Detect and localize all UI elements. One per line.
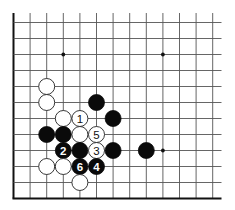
- move-number-label: 1: [77, 113, 83, 125]
- move-number-label: 4: [93, 161, 100, 173]
- star-point: [61, 53, 65, 57]
- white-stone-move-1: 1: [72, 111, 88, 127]
- star-point: [161, 149, 165, 153]
- black-stone-icon: [55, 127, 71, 143]
- white-stone-icon: [55, 111, 71, 127]
- black-stone-icon: [89, 95, 105, 111]
- white-stone: [72, 175, 88, 191]
- move-number-label: 3: [93, 145, 99, 157]
- white-stone-move-5: 5: [89, 127, 105, 143]
- go-board: 152364: [0, 0, 235, 210]
- white-stone: [72, 127, 88, 143]
- white-stone-move-3: 3: [89, 143, 105, 159]
- white-stone-icon: [72, 175, 88, 191]
- black-stone-icon: [138, 143, 154, 159]
- black-stone: [138, 143, 154, 159]
- black-stone: [89, 95, 105, 111]
- black-stone-move-2: 2: [55, 143, 71, 159]
- move-number-label: 6: [77, 161, 83, 173]
- black-stone-icon: [39, 127, 55, 143]
- white-stone: [55, 159, 71, 175]
- black-stone: [72, 143, 88, 159]
- black-stone: [105, 143, 121, 159]
- black-stone: [55, 127, 71, 143]
- white-stone: [39, 159, 55, 175]
- white-stone: [39, 79, 55, 95]
- move-number-label: 5: [93, 129, 99, 141]
- black-stone-icon: [72, 143, 88, 159]
- black-stone: [39, 127, 55, 143]
- move-number-label: 2: [60, 145, 66, 157]
- star-point: [161, 53, 165, 57]
- white-stone: [39, 95, 55, 111]
- black-stone-move-6: 6: [72, 159, 88, 175]
- white-stone-icon: [39, 95, 55, 111]
- white-stone-icon: [39, 79, 55, 95]
- white-stone: [55, 111, 71, 127]
- black-stone-icon: [105, 143, 121, 159]
- black-stone: [105, 111, 121, 127]
- black-stone-icon: [105, 111, 121, 127]
- white-stone-icon: [55, 159, 71, 175]
- white-stone-icon: [72, 127, 88, 143]
- black-stone-move-4: 4: [89, 159, 105, 175]
- white-stone-icon: [39, 159, 55, 175]
